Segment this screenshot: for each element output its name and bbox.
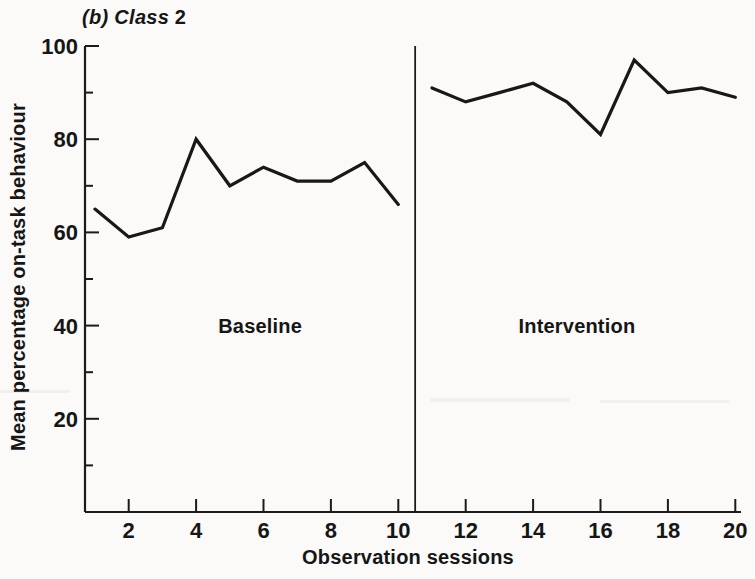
- phase-label-intervention: Intervention: [518, 315, 635, 337]
- x-tick-label-18: 18: [656, 518, 680, 543]
- x-axis-label: Observation sessions: [302, 546, 514, 568]
- x-tick-label-4: 4: [190, 518, 203, 543]
- x-tick-label-14: 14: [521, 518, 546, 543]
- x-tick-label-2: 2: [123, 518, 135, 543]
- y-tick-label-20: 20: [54, 407, 78, 432]
- axes-group: [85, 46, 741, 512]
- line-chart: 204060801002468101214161820 BaselineInte…: [0, 0, 755, 579]
- x-tick-label-16: 16: [588, 518, 612, 543]
- x-tick-label-6: 6: [257, 518, 269, 543]
- phase-label-baseline: Baseline: [218, 315, 302, 337]
- phase-labels-group: BaselineIntervention: [218, 315, 635, 337]
- y-tick-label-60: 60: [54, 220, 78, 245]
- y-tick-label-80: 80: [54, 127, 78, 152]
- chart-figure: (b) Class2 204060801002468101214161820 B…: [0, 0, 755, 579]
- x-tick-label-8: 8: [325, 518, 337, 543]
- series-line-intervention: [432, 60, 735, 135]
- y-tick-label-100: 100: [41, 34, 78, 59]
- x-tick-label-20: 20: [723, 518, 747, 543]
- axis-ticks-group: 204060801002468101214161820: [41, 34, 747, 543]
- y-tick-label-40: 40: [54, 314, 78, 339]
- y-axis-label: Mean percentage on-task behaviour: [7, 103, 29, 451]
- x-tick-label-10: 10: [386, 518, 410, 543]
- series-line-baseline: [95, 139, 398, 237]
- x-tick-label-12: 12: [453, 518, 477, 543]
